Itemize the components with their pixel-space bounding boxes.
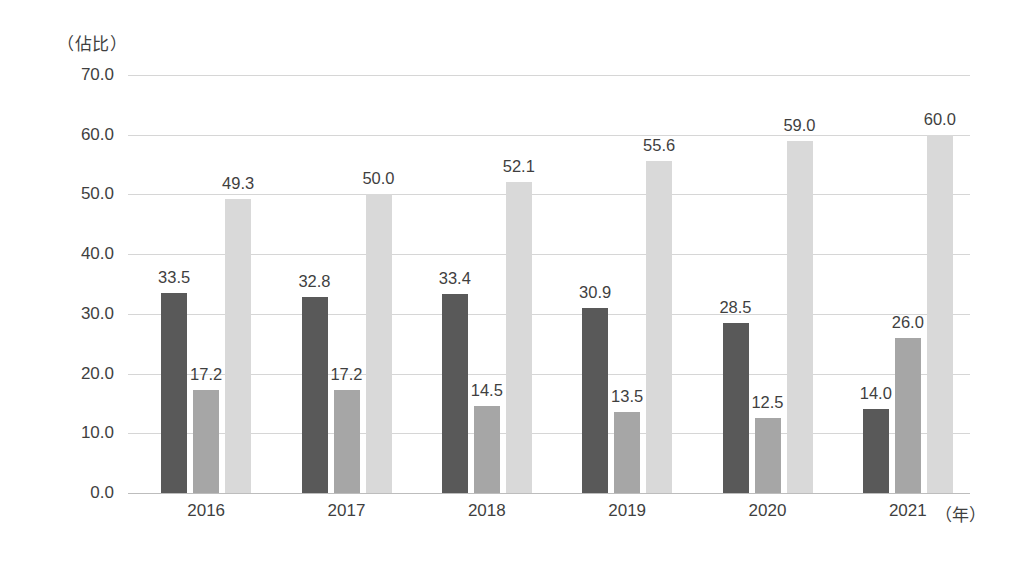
- bar[interactable]: [474, 406, 500, 493]
- bar-value-label: 59.0: [770, 116, 830, 135]
- bar[interactable]: [193, 390, 219, 493]
- y-axis-unit-caption: （佔比）: [57, 30, 127, 55]
- gridline: [128, 374, 970, 375]
- bar[interactable]: [614, 412, 640, 493]
- bar-value-label: 32.8: [285, 272, 345, 291]
- x-axis-tick-label: 2016: [146, 501, 266, 521]
- bar-chart: （佔比） 0.010.020.030.040.050.060.070.0 33.…: [0, 0, 1022, 574]
- bar[interactable]: [863, 409, 889, 493]
- gridline: [128, 254, 970, 255]
- bar[interactable]: [302, 297, 328, 493]
- bar[interactable]: [161, 293, 187, 493]
- bar[interactable]: [506, 182, 532, 493]
- gridline: [128, 135, 970, 136]
- bar[interactable]: [927, 135, 953, 493]
- bar-value-label: 30.9: [565, 283, 625, 302]
- bar-value-label: 50.0: [349, 169, 409, 188]
- bar-value-label: 28.5: [706, 298, 766, 317]
- y-axis-tick-label: 50.0: [52, 184, 114, 204]
- bar[interactable]: [787, 141, 813, 493]
- y-axis-tick-label: 70.0: [52, 65, 114, 85]
- bar-group: 28.512.559.0: [723, 75, 813, 493]
- bar-value-label: 60.0: [910, 110, 970, 129]
- y-axis-tick-label: 20.0: [52, 364, 114, 384]
- gridline: [128, 433, 970, 434]
- y-axis-tick-label: 60.0: [52, 125, 114, 145]
- bar-value-label: 49.3: [208, 174, 268, 193]
- bar-group: 33.517.249.3: [161, 75, 251, 493]
- plot-area: 33.517.249.332.817.250.033.414.552.130.9…: [128, 75, 970, 493]
- bar-group: 14.026.060.0: [863, 75, 953, 493]
- y-axis-tick-label: 0.0: [52, 483, 114, 503]
- gridline: [128, 194, 970, 195]
- x-axis-tick-label: 2019: [567, 501, 687, 521]
- bar[interactable]: [755, 418, 781, 493]
- bar-value-label: 52.1: [489, 157, 549, 176]
- bar[interactable]: [895, 338, 921, 493]
- bar[interactable]: [646, 161, 672, 493]
- gridline: [128, 493, 970, 494]
- y-axis-tick-label: 10.0: [52, 423, 114, 443]
- bar[interactable]: [366, 194, 392, 493]
- bar[interactable]: [334, 390, 360, 493]
- x-axis-tick-label: 2020: [708, 501, 828, 521]
- bar-group: 30.913.555.6: [582, 75, 672, 493]
- x-axis-tick-label: 2017: [287, 501, 407, 521]
- bar-group: 33.414.552.1: [442, 75, 532, 493]
- y-axis-tick-label: 30.0: [52, 304, 114, 324]
- bar-value-label: 55.6: [629, 136, 689, 155]
- gridline: [128, 75, 970, 76]
- bar-group: 32.817.250.0: [302, 75, 392, 493]
- gridline: [128, 314, 970, 315]
- bar-value-label: 33.5: [144, 268, 204, 287]
- x-axis-tick-label: 2018: [427, 501, 547, 521]
- bar-value-label: 33.4: [425, 269, 485, 288]
- x-axis-unit-caption: （年）: [935, 501, 986, 526]
- y-axis-tick-label: 40.0: [52, 244, 114, 264]
- bar[interactable]: [225, 199, 251, 493]
